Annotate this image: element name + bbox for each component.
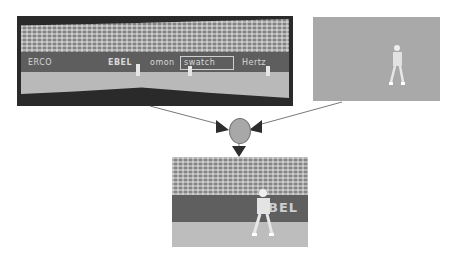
- player-figure-icon: [252, 188, 274, 238]
- composite-crowd: [172, 157, 308, 195]
- arrow-line-left: [150, 106, 222, 125]
- arrow-head-left-icon: [216, 120, 229, 133]
- composite-court: [172, 222, 308, 247]
- combiner-node: [229, 118, 251, 144]
- arrow-head-down-icon: [232, 146, 246, 157]
- arrow-line-right: [258, 102, 342, 125]
